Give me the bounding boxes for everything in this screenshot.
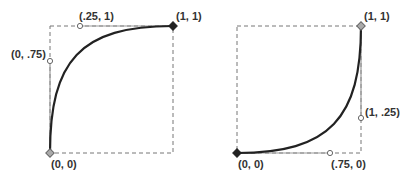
unit-box	[50, 26, 173, 153]
bezier-diagrams: (.25, 1) (1, 1) (0, .75) (0, 0) (1, 1) (…	[0, 0, 412, 180]
label-start: (0, 0)	[238, 158, 264, 170]
label-control-2: (1, .25)	[365, 106, 400, 118]
label-end: (1, 1)	[176, 10, 202, 22]
label-control-1: (0, .75)	[11, 48, 46, 60]
unit-box	[237, 26, 361, 153]
end-point	[169, 22, 177, 30]
label-start: (0, 0)	[51, 158, 77, 170]
bezier-curve	[50, 26, 173, 153]
end-point	[357, 22, 365, 30]
label-control-2: (.25, 1)	[79, 10, 114, 22]
ease-in-diagram: (1, 1) (1, .25) (0, 0) (.75, 0)	[233, 10, 400, 170]
start-point	[233, 149, 241, 157]
control-point-1	[327, 150, 332, 155]
label-end: (1, 1)	[364, 10, 390, 22]
label-control-1: (.75, 0)	[331, 158, 366, 170]
bezier-curve	[237, 26, 361, 153]
control-point-1	[47, 58, 52, 63]
ease-out-diagram: (.25, 1) (1, 1) (0, .75) (0, 0)	[11, 10, 202, 170]
control-point-2	[77, 23, 82, 28]
control-point-2	[358, 115, 363, 120]
start-point	[46, 149, 54, 157]
